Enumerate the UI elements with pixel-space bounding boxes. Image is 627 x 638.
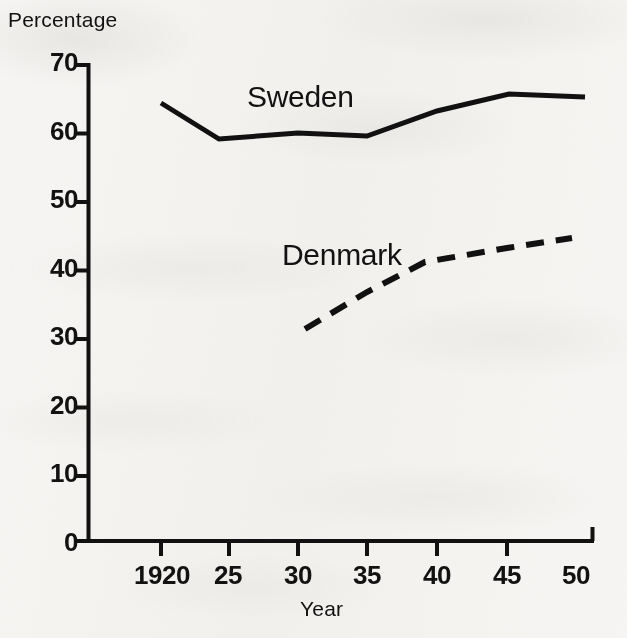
- series-line-denmark: [305, 238, 572, 329]
- series-line-sweden: [161, 94, 585, 139]
- y-axis-ticks: [74, 65, 88, 541]
- figure-container: Percentage Year 70 60 50 40 30 20 10 0 1…: [0, 0, 627, 638]
- chart-plot-area: [0, 0, 627, 638]
